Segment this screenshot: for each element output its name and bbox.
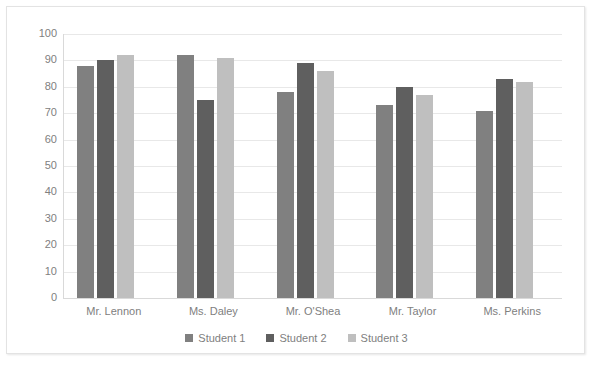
legend-swatch-icon [266, 334, 274, 342]
legend-swatch-icon [348, 334, 356, 342]
x-axis-label: Mr. O'Shea [263, 305, 363, 317]
y-tick-label: 60 [13, 134, 57, 145]
bar[interactable] [297, 63, 314, 298]
y-tick-label: 0 [13, 292, 57, 303]
y-tick-label: 20 [13, 239, 57, 250]
bar[interactable] [117, 55, 134, 298]
legend-item[interactable]: Student 1 [185, 332, 245, 344]
y-tick-label: 10 [13, 266, 57, 277]
legend-label: Student 1 [198, 332, 245, 344]
bar-group [177, 34, 234, 298]
x-axis-label: Mr. Lennon [64, 305, 164, 317]
y-tick-label: 70 [13, 107, 57, 118]
bar[interactable] [217, 58, 234, 298]
bar[interactable] [476, 111, 493, 298]
y-tick-label: 90 [13, 54, 57, 65]
chart-legend: Student 1Student 2Student 3 [7, 332, 586, 344]
legend-swatch-icon [185, 334, 193, 342]
y-tick-label: 40 [13, 186, 57, 197]
y-tick-label: 80 [13, 81, 57, 92]
bar-group [77, 34, 134, 298]
bar[interactable] [277, 92, 294, 298]
bar[interactable] [496, 79, 513, 298]
y-tick-label: 50 [13, 160, 57, 171]
bar-group [277, 34, 334, 298]
bar[interactable] [376, 105, 393, 298]
legend-label: Student 3 [361, 332, 408, 344]
bar[interactable] [416, 95, 433, 298]
bar[interactable] [177, 55, 194, 298]
x-axis-label: Ms. Perkins [462, 305, 562, 317]
y-tick-label: 100 [13, 28, 57, 39]
bar[interactable] [77, 66, 94, 298]
chart-frame: 1009080706050403020100 Student 1Student … [6, 6, 585, 354]
x-axis-label: Mr. Taylor [363, 305, 463, 317]
x-axis-label: Ms. Daley [164, 305, 264, 317]
y-tick-label: 30 [13, 213, 57, 224]
legend-label: Student 2 [279, 332, 326, 344]
legend-item[interactable]: Student 2 [266, 332, 326, 344]
bar-group [476, 34, 533, 298]
bar[interactable] [317, 71, 334, 298]
legend-item[interactable]: Student 3 [348, 332, 408, 344]
bar[interactable] [396, 87, 413, 298]
bar[interactable] [516, 82, 533, 298]
y-axis: 1009080706050403020100 [7, 34, 57, 299]
bar-group [376, 34, 433, 298]
gridline-0 [64, 298, 562, 299]
bar[interactable] [197, 100, 214, 298]
plot-area [64, 34, 562, 298]
bar[interactable] [97, 60, 114, 298]
